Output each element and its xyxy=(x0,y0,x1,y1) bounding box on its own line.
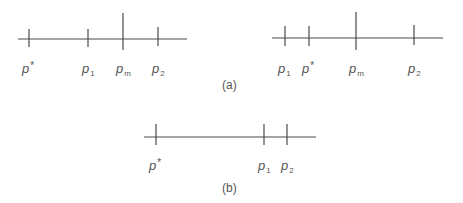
label-p1: p1 xyxy=(257,158,271,175)
number-line-a-right: p1p*pmp2 xyxy=(272,12,443,78)
label-p2: p2 xyxy=(280,158,294,175)
label-p-star: p* xyxy=(148,157,161,173)
label-p-star: p* xyxy=(21,60,34,76)
label-pm: pm xyxy=(348,61,364,78)
number-line-a-left: p*p1pmp2 xyxy=(18,13,187,78)
label-p1: p1 xyxy=(277,61,291,78)
label-p1: p1 xyxy=(81,61,95,78)
label-p2: p2 xyxy=(407,61,421,78)
label-pm: pm xyxy=(115,61,131,78)
label-p2: p2 xyxy=(151,61,165,78)
panels: p*p1pmp2p1p*pmp2p*p1p2 xyxy=(18,12,443,175)
caption-a: (a) xyxy=(222,78,237,92)
caption-b: (b) xyxy=(222,181,237,195)
number-line-b: p*p1p2 xyxy=(144,124,316,175)
label-p-star: p* xyxy=(301,60,314,76)
number-line-diagram: p*p1pmp2p1p*pmp2p*p1p2 (a) (b) xyxy=(0,0,463,203)
